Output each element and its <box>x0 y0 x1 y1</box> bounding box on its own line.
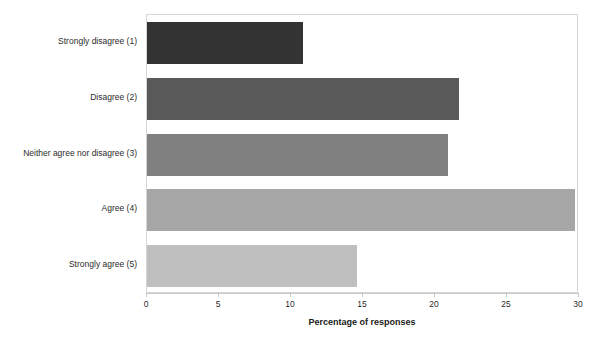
bar-row <box>147 71 577 127</box>
bar-agree <box>147 189 575 231</box>
x-axis-tick-mark <box>362 293 363 297</box>
bar-disagree <box>147 78 459 120</box>
y-axis-label-4: Agree (4) <box>0 181 137 237</box>
x-axis-tick-label: 0 <box>126 299 166 309</box>
plot-area <box>146 14 578 293</box>
bar-row <box>147 238 577 294</box>
bar-row <box>147 127 577 183</box>
y-axis-label-5: Strongly agree (5) <box>0 237 137 293</box>
bar-strongly-agree <box>147 245 357 287</box>
x-axis-tick-mark <box>290 293 291 297</box>
chart-title <box>0 0 602 3</box>
x-axis-tick-mark <box>506 293 507 297</box>
y-axis-label-3: Neither agree nor disagree (3) <box>0 126 137 182</box>
y-axis-label-1: Strongly disagree (1) <box>0 14 137 70</box>
x-axis-tick-mark <box>578 293 579 297</box>
x-axis-tick-label: 10 <box>270 299 310 309</box>
x-axis-tick-mark <box>434 293 435 297</box>
bar-row <box>147 182 577 238</box>
bar-strongly-disagree <box>147 22 303 64</box>
y-axis-label-2: Disagree (2) <box>0 70 137 126</box>
x-axis-title: Percentage of responses <box>146 317 578 327</box>
x-axis-tick-label: 30 <box>558 299 598 309</box>
x-axis-tick-label: 5 <box>198 299 238 309</box>
x-axis-tick-mark <box>218 293 219 297</box>
y-axis-category-labels: Strongly disagree (1) Disagree (2) Neith… <box>0 14 142 293</box>
x-axis-tick-label: 15 <box>342 299 382 309</box>
bar-row <box>147 15 577 71</box>
x-axis-tick-label: 20 <box>414 299 454 309</box>
bar-neither <box>147 134 448 176</box>
x-axis-tick-label: 25 <box>486 299 526 309</box>
bar-chart: Strongly disagree (1) Disagree (2) Neith… <box>0 0 602 343</box>
x-axis-tick-mark <box>146 293 147 297</box>
